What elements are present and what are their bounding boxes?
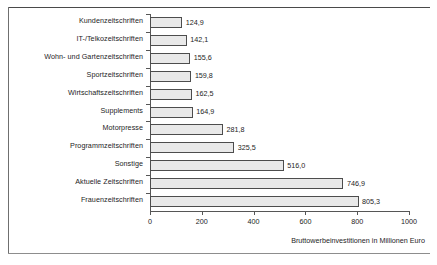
- bar-row: Sportzeitschriften159,8: [0, 68, 437, 86]
- bar: [150, 89, 192, 100]
- y-axis-tick: [146, 14, 150, 15]
- bar-row: Wirtschaftszeitschriften162,5: [0, 86, 437, 104]
- bar: [150, 160, 284, 171]
- category-label: IT-/Telkozeitschriften: [76, 34, 143, 43]
- category-label: Programmzeitschriften: [70, 141, 143, 150]
- bar-row: Supplements164,9: [0, 104, 437, 122]
- category-label: Supplements: [100, 106, 143, 115]
- y-axis-tick: [146, 32, 150, 33]
- bar-value-label: 164,9: [196, 107, 214, 116]
- y-axis-tick: [146, 68, 150, 69]
- category-label: Wohn- und Gartenzeitschriften: [44, 52, 143, 61]
- y-axis-tick: [146, 139, 150, 140]
- y-axis-tick: [146, 175, 150, 176]
- y-axis-tick: [146, 157, 150, 158]
- category-label: Aktuelle Zeitschriften: [75, 177, 143, 186]
- bar-value-label: 124,9: [186, 18, 204, 27]
- bar: [150, 196, 359, 207]
- bar: [150, 124, 223, 135]
- bar-value-label: 805,3: [362, 197, 380, 206]
- y-axis-tick: [146, 193, 150, 194]
- bar: [150, 35, 187, 46]
- bar-value-label: 325,5: [238, 143, 256, 152]
- bar-row: Programmzeitschriften325,5: [0, 139, 437, 157]
- bar-value-label: 155,6: [194, 53, 212, 62]
- y-axis-tick: [146, 86, 150, 87]
- bar: [150, 178, 343, 189]
- x-axis-tick-label: 600: [299, 217, 311, 226]
- bar-value-label: 159,8: [195, 71, 213, 80]
- bar-row: Motorpresse281,8: [0, 121, 437, 139]
- y-axis-tick: [146, 121, 150, 122]
- y-axis-tick: [146, 50, 150, 51]
- bar-row: Frauenzeitschriften805,3: [0, 193, 437, 211]
- x-axis-tick: [409, 211, 410, 215]
- bar: [150, 71, 191, 82]
- x-axis-tick-label: 800: [351, 217, 363, 226]
- x-axis-tick: [202, 211, 203, 215]
- bar-row: Wohn- und Gartenzeitschriften155,6: [0, 50, 437, 68]
- x-axis-tick-label: 400: [248, 217, 260, 226]
- bar-value-label: 281,8: [226, 125, 244, 134]
- bar-value-label: 516,0: [287, 161, 305, 170]
- bar: [150, 17, 182, 28]
- category-label: Sportzeitschriften: [87, 70, 143, 79]
- bar-value-label: 162,5: [196, 89, 214, 98]
- x-axis-tick: [254, 211, 255, 215]
- category-label: Frauenzeitschriften: [81, 195, 143, 204]
- category-label: Kundenzeitschriften: [79, 16, 143, 25]
- category-label: Wirtschaftszeitschriften: [68, 88, 143, 97]
- category-label: Motorpresse: [103, 123, 144, 132]
- y-axis-tick: [146, 104, 150, 105]
- x-axis-line: [150, 211, 409, 212]
- category-label: Sonstige: [115, 159, 143, 168]
- x-axis-tick-label: 200: [196, 217, 208, 226]
- x-axis-tick: [305, 211, 306, 215]
- bar-row: Aktuelle Zeitschriften746,9: [0, 175, 437, 193]
- bar: [150, 53, 190, 64]
- bar-row: Kundenzeitschriften124,9: [0, 14, 437, 32]
- x-axis-tick-label: 0: [148, 217, 152, 226]
- x-axis-tick: [150, 211, 151, 215]
- bar-row: IT-/Telkozeitschriften142,1: [0, 32, 437, 50]
- bar: [150, 142, 234, 153]
- x-axis-title: Bruttowerbeinvestitionen in Millionen Eu…: [291, 236, 425, 245]
- bar-value-label: 142,1: [190, 35, 208, 44]
- bar-chart-plot-area: Kundenzeitschriften124,9IT-/Telkozeitsch…: [0, 0, 437, 265]
- bar-row: Sonstige516,0: [0, 157, 437, 175]
- bar-value-label: 746,9: [347, 179, 365, 188]
- chart-figure: Kundenzeitschriften124,9IT-/Telkozeitsch…: [0, 0, 437, 265]
- x-axis-tick-label: 1000: [401, 217, 417, 226]
- x-axis-tick: [357, 211, 358, 215]
- bar: [150, 107, 193, 118]
